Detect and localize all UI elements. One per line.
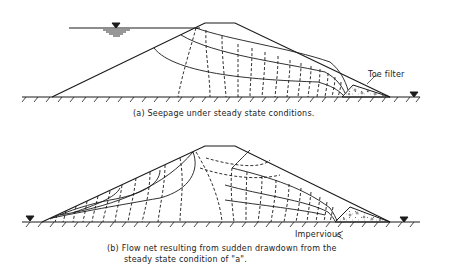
- caption-a: (a) Seepage under steady state condition…: [133, 109, 315, 118]
- panel-a: [22, 23, 420, 102]
- water-level-triangle-b-upstream: [26, 216, 34, 221]
- ground-hatch-a: [22, 97, 420, 102]
- flow-net-diagram: [0, 0, 451, 274]
- impervious-label: Impervious: [295, 230, 342, 239]
- toe-filter-a: [342, 85, 390, 97]
- equipotential-lines-b-right: [231, 168, 333, 222]
- caption-b-line1: (b) Flow net resulting from sudden drawd…: [107, 244, 337, 253]
- panel-b: [22, 146, 420, 239]
- water-level-triangle-b-downstream: [400, 217, 408, 222]
- dam-outline-a: [52, 23, 390, 97]
- equipotential-lines-b-left: [55, 152, 280, 222]
- ground-hatch-b: [26, 222, 414, 227]
- water-level-triangle-a-downstream: [410, 92, 418, 97]
- flow-lines-b-right: [225, 150, 337, 221]
- caption-b-line2: steady state condition of "a".: [124, 255, 247, 264]
- water-ripples: [103, 30, 130, 36]
- flow-lines-b-left: [50, 152, 195, 219]
- toe-filter-label: Toe filter: [368, 70, 405, 79]
- water-level-triangle-a: [112, 23, 120, 28]
